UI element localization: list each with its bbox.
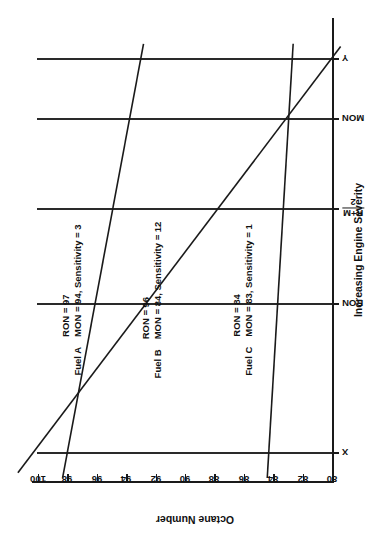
fuel-lines (0, 0, 388, 553)
annotation-ron: RON = 96 (140, 222, 152, 340)
annotation-fuel-name: Fuel A (72, 347, 84, 376)
annotation-fuel-b: Fuel BRON = 96MON = 84, Sensitivity = 12 (140, 222, 165, 379)
annotation-mon-sensitivity: MON = 94, Sensitivity = 3 (72, 224, 84, 336)
annotation-mon-sensitivity: MON = 84, Sensitivity = 12 (152, 222, 164, 340)
annotation-ron: RON = 84 (231, 224, 243, 336)
annotation-fuel-name: Fuel C (243, 347, 255, 376)
annotation-mon-sensitivity: MON = 83, Sensitivity = 1 (243, 224, 255, 336)
line-fuel-c (267, 44, 293, 478)
annotation-fuel-c: Fuel CRON = 84MON = 83, Sensitivity = 1 (231, 224, 256, 376)
annotation-fuel-a: Fuel ARON = 97MON = 94, Sensitivity = 3 (60, 224, 85, 375)
annotation-fuel-name: Fuel B (152, 349, 164, 378)
annotation-ron: RON = 97 (60, 224, 72, 336)
